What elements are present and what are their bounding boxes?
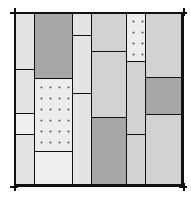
- tile-b-dark: [34, 12, 73, 79]
- tile-a-light: [14, 12, 35, 70]
- tile-b-lighter: [34, 151, 73, 187]
- tile-c-light: [72, 35, 92, 94]
- tile-e-dotted: [126, 12, 146, 62]
- corner-tick: [183, 183, 185, 191]
- tile-d-dark: [91, 117, 127, 187]
- tile-f-mid: [145, 114, 184, 187]
- tile-d-mid: [91, 51, 127, 118]
- tile-e-mid: [126, 61, 146, 135]
- tile-f-mid: [145, 12, 184, 78]
- tile-a-light: [14, 134, 35, 187]
- tile-e-mid: [126, 134, 146, 187]
- corner-tick: [183, 8, 185, 16]
- tile-c-light: [72, 93, 92, 187]
- tile-a-lighter: [14, 113, 35, 135]
- tile-f-dark: [145, 77, 184, 115]
- tile-a-light: [14, 69, 35, 114]
- corner-tick: [14, 8, 16, 16]
- tiling-diagram: [0, 0, 191, 199]
- corner-tick: [14, 183, 16, 191]
- tile-b-dotted: [34, 78, 73, 152]
- tile-d-mid: [91, 12, 127, 52]
- tile-c-light: [72, 12, 92, 36]
